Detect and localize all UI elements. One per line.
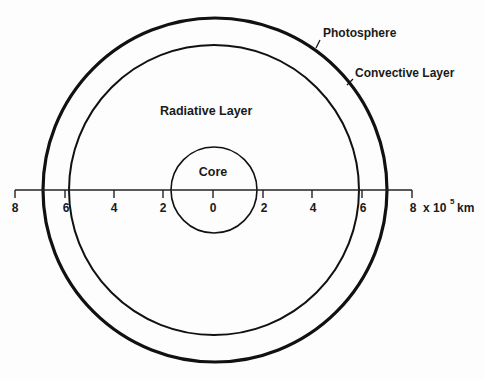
unit-prefix: x 10 [423,201,447,215]
diagram-svg: 8 6 4 2 0 2 4 6 8 x 10 5 km Photosphere … [0,0,485,379]
tick-label: 2 [160,201,167,215]
tick-label: 2 [261,201,268,215]
tick-label: 8 [410,201,417,215]
core-label: Core [199,165,228,179]
axis-ticks [15,190,412,198]
tick-label: 8 [12,201,19,215]
radiative-label: Radiative Layer [160,104,253,118]
photosphere-label: Photosphere [323,26,397,40]
unit-km: km [457,201,474,215]
tick-label: 4 [111,201,118,215]
tick-label: 6 [360,201,367,215]
convective-label: Convective Layer [355,66,455,80]
sun-structure-diagram: 8 6 4 2 0 2 4 6 8 x 10 5 km Photosphere … [0,0,485,379]
photosphere-leader [316,40,320,48]
unit-exponent: 5 [450,197,455,206]
tick-label: 4 [310,201,317,215]
tick-label: 0 [210,201,217,215]
tick-label: 6 [63,201,70,215]
